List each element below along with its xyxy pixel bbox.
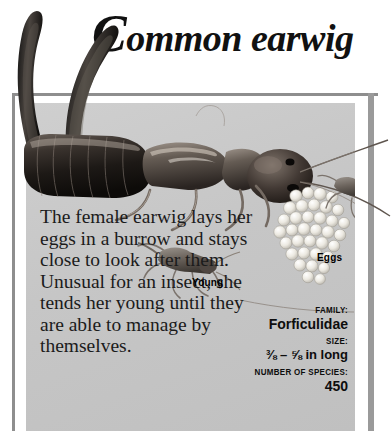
earwig-fact-page: Common earwig xyxy=(0,0,391,431)
title-text: ommon earwig xyxy=(126,17,353,59)
fact-panel: FAMILY: Forficulidae SIZE: ⅜ – ⅝ in long… xyxy=(248,306,348,399)
frame-rule-top xyxy=(12,93,378,96)
fact-value-family: Forficulidae xyxy=(248,316,348,332)
frame-rule-right xyxy=(368,93,374,431)
page-title: Common earwig xyxy=(92,16,354,60)
fact-value-number-of-species: 450 xyxy=(248,378,348,394)
label-eggs: Eggs xyxy=(317,252,342,263)
fact-key-size: SIZE: xyxy=(248,336,348,348)
label-young: Young xyxy=(192,277,223,288)
frame-rule-left xyxy=(12,93,15,431)
fact-key-number-of-species: NUMBER OF SPECIES: xyxy=(248,367,348,379)
fact-key-family: FAMILY: xyxy=(248,305,348,317)
fact-value-size: ⅜ – ⅝ in long xyxy=(248,347,348,363)
title-drop-cap: C xyxy=(92,5,126,62)
